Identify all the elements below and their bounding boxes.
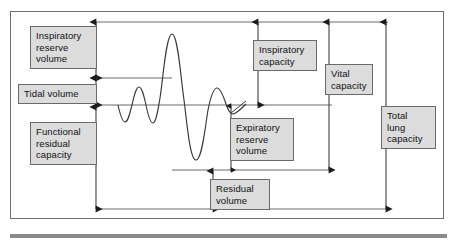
- label-residual-volume: Residual volume: [210, 179, 270, 210]
- bottom-divider-rule: [10, 234, 447, 238]
- label-expiratory-reserve-volume: Expiratory reserve volume: [230, 118, 294, 161]
- label-inspiratory-capacity: Inspiratory capacity: [253, 40, 317, 71]
- label-functional-residual-capacity: Functional residual capacity: [30, 122, 97, 165]
- spirogram-trace: [118, 34, 246, 160]
- label-tidal-volume: Tidal volume: [18, 84, 97, 104]
- label-total-lung-capacity: Total lung capacity: [381, 106, 436, 149]
- label-vital-capacity: Vital capacity: [325, 64, 373, 95]
- label-inspiratory-reserve-volume: Inspiratory reserve volume: [30, 26, 97, 69]
- lung-volumes-figure: Inspiratory reserve volume Tidal volume …: [0, 0, 459, 252]
